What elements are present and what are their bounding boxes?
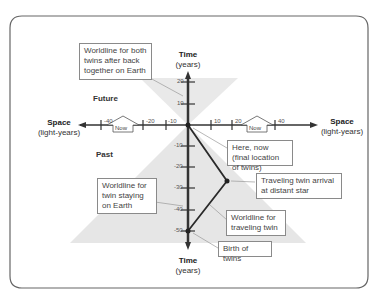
tick-label-space-neg20: -20 <box>146 116 155 126</box>
space-unit-left: (light-years) <box>38 128 80 137</box>
tick-label-space-neg10: -10 <box>168 116 177 126</box>
now-label-right: Now <box>249 123 261 133</box>
time-title-top: Time <box>179 50 198 59</box>
annotation-traveling-twin-worldline: Worldline for traveling twin <box>226 210 286 236</box>
space-title-left: Space <box>47 118 71 127</box>
time-title-bottom: Time <box>179 256 198 265</box>
star-arrival-point <box>225 179 230 184</box>
past-region-label: Past <box>96 150 113 160</box>
tick-label-time-20: 20 <box>177 76 184 86</box>
tick-label-space-neg40: -40 <box>104 116 113 126</box>
birth-point <box>186 229 191 234</box>
space-axis-title-right: Space (light-years) <box>317 117 367 137</box>
future-region-label: Future <box>93 94 118 104</box>
annotation-earth-twin-worldline: Worldline for twin staying on Earth <box>97 178 157 214</box>
time-unit-bottom: (years) <box>176 266 201 275</box>
tick-label-space-10: 10 <box>214 116 221 126</box>
tick-label-time-neg40: -40 <box>174 204 183 214</box>
annotation-both-twins-worldline: Worldline for both twins after back toge… <box>79 43 152 80</box>
space-unit-right: (light-years) <box>321 127 363 136</box>
annotation-star-arrival: Traveling twin arrival at distant star <box>256 173 342 199</box>
annotation-here-now: Here, now (final location of twins) <box>227 140 293 166</box>
tick-label-space-20: 20 <box>235 116 242 126</box>
here-now-point <box>186 123 191 128</box>
time-axis-title-bottom: Time (years) <box>170 256 206 276</box>
tick-label-time-neg50: -50 <box>174 225 183 235</box>
tick-label-time-neg10: -10 <box>174 140 183 150</box>
tick-label-time-neg20: -20 <box>174 161 183 171</box>
time-unit-top: (years) <box>176 60 201 69</box>
tick-label-space-40: 40 <box>278 116 285 126</box>
space-title-right: Space <box>330 117 354 126</box>
space-axis-title-left: Space (light-years) <box>34 118 84 138</box>
annotation-birth-of-twins: Birth of twins <box>218 241 272 257</box>
now-label-left: Now <box>115 123 127 133</box>
tick-label-time-neg30: -30 <box>174 182 183 192</box>
time-axis-title-top: Time (years) <box>170 50 206 70</box>
tick-label-time-10: 10 <box>177 98 184 108</box>
